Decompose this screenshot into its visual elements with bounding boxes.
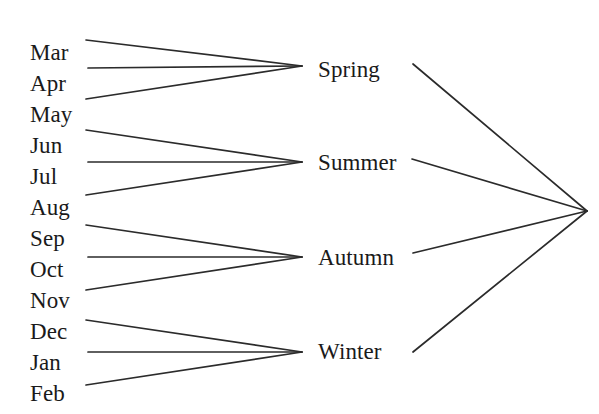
season-node-label: Autumn [318,246,394,269]
season-node-label: Winter [318,340,382,363]
month-to-season-edges [86,40,302,385]
month-node-label: Jul [30,165,57,188]
season-hierarchy-diagram: MarAprMayJunJulAugSepOctNovDecJanFeb Spr… [0,0,599,414]
month-node-label: Sep [30,227,65,250]
season-to-root-edges [412,64,587,352]
month-node-label: Jun [30,134,62,157]
month-node-label: May [30,103,72,126]
month-node-label: Apr [30,72,66,95]
edge-month-to-season [86,257,302,290]
edge-month-to-season [86,225,302,257]
edge-month-to-season [86,162,302,195]
edge-month-to-season [86,66,302,99]
month-node-label: Feb [30,382,65,405]
month-node-label: Dec [30,320,67,343]
month-node-label: Mar [30,41,69,64]
edge-season-to-root [412,159,587,211]
edge-month-to-season [86,40,302,66]
season-node-label: Summer [318,151,397,174]
edge-season-to-root [413,64,587,211]
month-node-label: Nov [30,289,70,312]
edge-month-to-season [86,352,302,385]
month-node-label: Aug [30,196,70,219]
tree-edges-layer [0,0,599,414]
edge-month-to-season [86,130,302,162]
edge-month-to-season [86,320,302,352]
month-node-label: Oct [30,258,64,281]
edge-month-to-season [88,66,302,68]
month-node-label: Jan [30,351,61,374]
season-node-label: Spring [318,58,380,81]
